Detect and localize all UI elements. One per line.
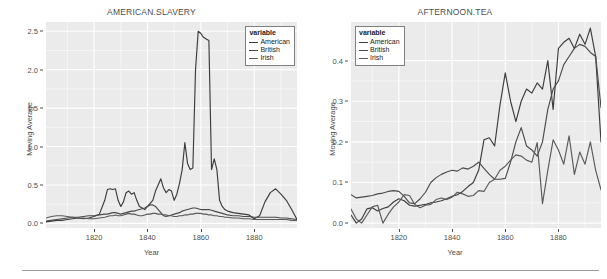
legend-item[interactable]: Irish (249, 54, 290, 62)
legend-label-american: American (370, 38, 400, 46)
y-axis-ticks: 0.00.10.20.30.4 (303, 22, 349, 228)
chart-title: AMERICAN.SLAVERY (0, 7, 303, 17)
legend: variable American British Irish (245, 26, 295, 66)
legend-item[interactable]: British (249, 46, 290, 54)
y-tick-label: 1.0 (28, 142, 38, 151)
y-tick-mark (40, 108, 43, 109)
x-tick-mark (505, 229, 506, 232)
x-tick-label: 1880 (550, 233, 567, 242)
legend-swatch-british (249, 50, 258, 51)
footer-divider (22, 270, 599, 271)
x-axis-label: Year (303, 248, 607, 257)
legend-swatch-american (249, 42, 258, 43)
y-tick-mark (345, 101, 348, 102)
y-tick-label: 0.2 (333, 137, 343, 146)
y-tick-mark (345, 60, 348, 61)
y-tick-label: 0.0 (333, 219, 343, 228)
x-axis-label: Year (0, 248, 303, 257)
y-tick-mark (40, 31, 43, 32)
y-tick-mark (345, 223, 348, 224)
y-tick-label: 0.0 (28, 219, 38, 228)
y-tick-mark (40, 223, 43, 224)
y-tick-mark (40, 69, 43, 70)
legend-label-irish: Irish (260, 54, 273, 62)
legend-item[interactable]: British (359, 46, 400, 54)
y-tick-mark (345, 141, 348, 142)
legend-swatch-british (359, 50, 368, 51)
x-tick-mark (254, 229, 255, 232)
x-axis-ticks: 1820184018601880 (46, 229, 297, 245)
y-tick-label: 0.5 (28, 180, 38, 189)
y-tick-mark (345, 182, 348, 183)
legend-label-british: British (370, 46, 389, 54)
chart-panel-american-slavery: AMERICAN.SLAVERY Moving Average 0.00.51.… (0, 0, 303, 258)
legend-swatch-irish (249, 58, 258, 59)
x-tick-label: 1880 (246, 233, 263, 242)
x-tick-label: 1840 (444, 233, 461, 242)
figure-root: AMERICAN.SLAVERY Moving Average 0.00.51.… (0, 0, 607, 279)
x-tick-label: 1840 (139, 233, 156, 242)
x-tick-mark (452, 229, 453, 232)
legend-swatch-irish (359, 58, 368, 59)
legend: variable American British Irish (355, 26, 405, 66)
y-tick-mark (40, 184, 43, 185)
y-tick-mark (40, 146, 43, 147)
y-tick-label: 2.0 (28, 65, 38, 74)
legend-item[interactable]: Irish (359, 54, 400, 62)
x-tick-mark (201, 229, 202, 232)
facet-container: AMERICAN.SLAVERY Moving Average 0.00.51.… (0, 0, 607, 258)
x-tick-mark (399, 229, 400, 232)
legend-swatch-american (359, 42, 368, 43)
legend-label-irish: Irish (370, 54, 383, 62)
y-tick-label: 0.3 (333, 97, 343, 106)
x-tick-label: 1820 (391, 233, 408, 242)
legend-item[interactable]: American (359, 38, 400, 46)
x-tick-label: 1860 (193, 233, 210, 242)
legend-title: variable (249, 29, 290, 37)
legend-label-british: British (260, 46, 279, 54)
chart-panel-afternoon-tea: AFTERNOON.TEA Moving Average 0.00.10.20.… (303, 0, 607, 258)
x-tick-mark (94, 229, 95, 232)
x-tick-mark (147, 229, 148, 232)
x-axis-ticks: 1820184018601880 (351, 229, 601, 245)
legend-label-american: American (260, 38, 290, 46)
x-tick-label: 1860 (497, 233, 514, 242)
chart-title: AFTERNOON.TEA (303, 7, 607, 17)
y-axis-ticks: 0.00.51.01.52.02.5 (0, 22, 44, 228)
y-tick-label: 0.4 (333, 56, 343, 65)
legend-item[interactable]: American (249, 38, 290, 46)
x-tick-mark (558, 229, 559, 232)
legend-title: variable (359, 29, 400, 37)
x-tick-label: 1820 (86, 233, 103, 242)
y-tick-label: 1.5 (28, 104, 38, 113)
y-tick-label: 0.1 (333, 178, 343, 187)
y-tick-label: 2.5 (28, 27, 38, 36)
